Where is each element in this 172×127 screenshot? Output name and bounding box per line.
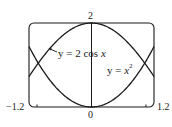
parabola-curve-label: y = x2: [107, 65, 133, 76]
y-max-label: 2: [88, 11, 93, 21]
chart-plot: [0, 0, 172, 127]
cos-label-var: x: [101, 47, 106, 59]
cos-label-prefix: y = 2 cos: [58, 47, 101, 59]
cos-curve-label: y = 2 cos x: [58, 48, 106, 59]
sq-label-exp: 2: [129, 62, 133, 70]
sq-label-prefix: y =: [107, 64, 124, 76]
x-max-label: 1.2: [157, 102, 170, 112]
x-center-label: 0: [88, 110, 93, 120]
x-min-label: −1.2: [6, 102, 24, 112]
